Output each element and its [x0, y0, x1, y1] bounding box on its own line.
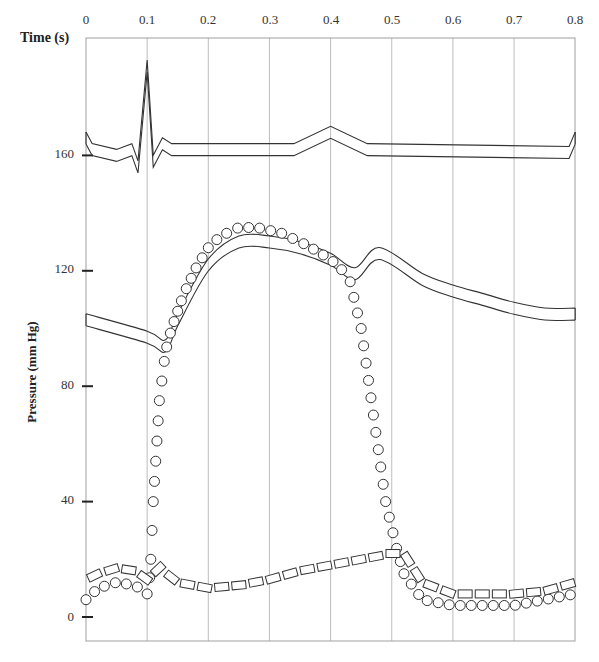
- data-series: [81, 60, 576, 610]
- x-axis-title: Time (s): [20, 30, 69, 46]
- y-tick-label: 40: [34, 492, 74, 508]
- x-tick-label: 0.4: [323, 12, 339, 28]
- x-tick-label: 0.3: [262, 12, 278, 28]
- y-tick-label: 80: [34, 377, 74, 393]
- x-tick-label: 0: [83, 12, 90, 28]
- atrial-pressure-markers: [87, 550, 576, 599]
- x-tick-label: 0.2: [200, 12, 216, 28]
- x-tick-label: 0.5: [384, 12, 400, 28]
- plot-area: [0, 0, 599, 662]
- x-tick-label: 0.6: [445, 12, 461, 28]
- vertical-gridlines: [147, 38, 514, 641]
- y-tick-marks: [82, 155, 93, 617]
- y-axis-title: Pressure (mm Hg): [24, 321, 40, 422]
- y-tick-label: 160: [34, 146, 74, 162]
- ventricular-pressure-markers: [81, 223, 575, 611]
- x-tick-label: 0.1: [139, 12, 155, 28]
- x-tick-label: 0.7: [506, 12, 522, 28]
- y-tick-label: 120: [34, 261, 74, 277]
- y-tick-label: 0: [34, 609, 74, 625]
- x-tick-label: 0.8: [567, 12, 583, 28]
- pressure-chart: Time (s) Pressure (mm Hg) 0 0.1 0.2 0.3 …: [0, 0, 599, 662]
